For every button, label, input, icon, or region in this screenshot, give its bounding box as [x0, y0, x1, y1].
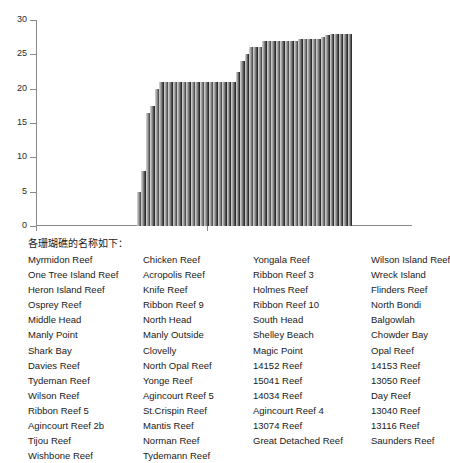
reef-name-item: Agincourt Reef 2b [28, 418, 143, 433]
reef-name-item: Saunders Reef [371, 433, 449, 448]
reef-name-item: 14153 Reef [371, 358, 449, 373]
y-axis-tick-label: 0 [3, 221, 27, 230]
reef-name-item: Agincourt Reef 5 [143, 388, 253, 403]
reef-name-item-empty [371, 448, 449, 463]
reef-name-item: Holmes Reef [253, 282, 371, 297]
y-axis-tick-label: 10 [3, 152, 27, 161]
reef-name-item: Manly Outside [143, 327, 253, 342]
reef-list-heading: 各珊瑚礁的名称如下： [28, 238, 128, 250]
reef-name-item: 13050 Reef [371, 373, 449, 388]
reef-name-item: Tijou Reef [28, 433, 143, 448]
y-axis-tick-label: 15 [3, 118, 27, 127]
reef-name-item: 13116 Reef [371, 418, 449, 433]
reef-name-item: St.Crispin Reef [143, 403, 253, 418]
y-axis-tick-label-wrap: 10 [0, 157, 36, 158]
y-axis-tick-label-wrap: 25 [0, 54, 36, 55]
reef-name-item: Wishbone Reef [28, 448, 143, 463]
reef-name-item: Agincourt Reef 4 [253, 403, 371, 418]
reef-name-item: Chicken Reef [143, 252, 253, 267]
reef-name-item: Opal Reef [371, 343, 449, 358]
reef-name-item: Flinders Reef [371, 282, 449, 297]
reef-name-item: Great Detached Reef [253, 433, 371, 448]
reef-name-item: Clovelly [143, 343, 253, 358]
reef-name-item: Tydeman Reef [28, 373, 143, 388]
reef-name-item: Heron Island Reef [28, 282, 143, 297]
reef-name-item: Ribbon Reef 9 [143, 297, 253, 312]
y-axis-tick-label-wrap: 5 [0, 192, 36, 193]
reef-name-item: North Opal Reef [143, 358, 253, 373]
y-axis-tick-label: 25 [3, 49, 27, 58]
reef-name-item: Yonge Reef [143, 373, 253, 388]
reef-name-item: Wilson Reef [28, 388, 143, 403]
reef-name-item: North Head [143, 312, 253, 327]
reef-name-item: Tydemann Reef [143, 448, 253, 463]
reef-name-item: Yongala Reef [253, 252, 371, 267]
reef-column-1: Myrmidon ReefOne Tree Island ReefHeron I… [0, 252, 143, 463]
reef-name-item: 15041 Reef [253, 373, 371, 388]
reef-name-item: South Head [253, 312, 371, 327]
reef-name-item: Knife Reef [143, 282, 253, 297]
reef-name-item: One Tree Island Reef [28, 267, 143, 282]
y-axis-tick-label: 30 [3, 15, 27, 24]
reef-name-item: Day Reef [371, 388, 449, 403]
reef-name-item: Shark Bay [28, 343, 143, 358]
bar [348, 34, 353, 226]
plot-area [36, 20, 412, 226]
reef-list-columns: Myrmidon ReefOne Tree Island ReefHeron I… [0, 252, 449, 463]
reef-name-item: Chowder Bay [371, 327, 449, 342]
reef-name-item: 13074 Reef [253, 418, 371, 433]
reef-name-item: Osprey Reef [28, 297, 143, 312]
reef-name-item: Ribbon Reef 3 [253, 267, 371, 282]
reef-name-item: North Bondi [371, 297, 449, 312]
reef-name-item: Mantis Reef [143, 418, 253, 433]
reef-name-item: Shelley Beach [253, 327, 371, 342]
y-axis-tick-label-wrap: 0 [0, 226, 36, 227]
reef-column-4: Wilson Island ReefWreck IslandFlinders R… [371, 252, 449, 463]
reef-name-item: Myrmidon Reef [28, 252, 143, 267]
y-axis-tick-label-wrap: 15 [0, 123, 36, 124]
reef-name-item: Magic Point [253, 343, 371, 358]
reef-name-item-empty [253, 448, 371, 463]
bar-chart-figure: 051015202530 [0, 0, 449, 236]
y-axis-tick-label: 5 [3, 187, 27, 196]
reef-name-item: Manly Point [28, 327, 143, 342]
reef-name-item: Wreck Island [371, 267, 449, 282]
x-axis-tick [36, 226, 37, 231]
reef-name-item: Acropolis Reef [143, 267, 253, 282]
reef-name-item: Balgowlah [371, 312, 449, 327]
reef-name-item: Norman Reef [143, 433, 253, 448]
y-axis-tick-label: 20 [3, 84, 27, 93]
reef-name-item: Middle Head [28, 312, 143, 327]
reef-name-item: 14034 Reef [253, 388, 371, 403]
reef-name-item: Wilson Island Reef [371, 252, 449, 267]
y-axis-tick-label-wrap: 20 [0, 89, 36, 90]
reef-name-item: 13040 Reef [371, 403, 449, 418]
y-axis-tick-label-wrap: 30 [0, 20, 36, 21]
reef-name-item: 14152 Reef [253, 358, 371, 373]
x-axis-tick [207, 226, 208, 231]
reef-name-item: Ribbon Reef 10 [253, 297, 371, 312]
reef-name-item: Ribbon Reef 5 [28, 403, 143, 418]
reef-column-3: Yongala ReefRibbon Reef 3Holmes ReefRibb… [253, 252, 371, 463]
reef-column-2: Chicken ReefAcropolis ReefKnife ReefRibb… [143, 252, 253, 463]
reef-name-item: Davies Reef [28, 358, 143, 373]
